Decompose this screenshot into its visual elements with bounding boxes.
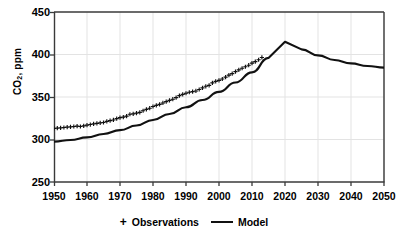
legend-label-observations: Observations — [132, 216, 199, 228]
chart-legend: + Observations Model — [0, 216, 388, 228]
y-axis-ticks: 450 400 350 300 250 — [12, 0, 50, 242]
axis-tick-marks — [50, 13, 384, 187]
y-tick-label: 350 — [16, 92, 50, 102]
y-tick-label: 300 — [16, 134, 50, 144]
y-tick-label: 400 — [16, 49, 50, 59]
legend-label-model: Model — [238, 216, 268, 228]
legend-item-model: Model — [211, 216, 268, 228]
x-tick-label: 2050 — [364, 190, 400, 202]
y-tick-label: 250 — [16, 177, 50, 187]
grid-lines — [54, 12, 384, 182]
plus-marker-icon: + — [120, 216, 127, 228]
y-tick-label: 450 — [16, 7, 50, 17]
legend-item-observations: + Observations — [120, 216, 199, 228]
line-swatch-icon — [211, 221, 233, 224]
